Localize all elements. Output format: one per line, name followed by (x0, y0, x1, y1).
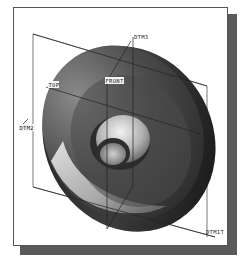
label-dtm2: DTM2 (20, 125, 34, 131)
label-dtm3: DTM3 (134, 34, 148, 40)
bore (100, 143, 126, 165)
label-top: TOP (49, 82, 60, 88)
label-dtm1: DTM1T (206, 229, 224, 235)
label-front: FRONT (106, 78, 124, 84)
wheel-model: DTM3 FRONT TOP DTM2 DTM1T (14, 8, 228, 246)
model-viewport: DTM3 FRONT TOP DTM2 DTM1T (13, 7, 228, 246)
